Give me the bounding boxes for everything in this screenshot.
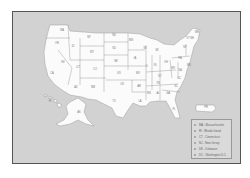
- state-label: UT: [76, 65, 80, 69]
- legend: MA - Massachusetts RI - Rhode Island CT …: [191, 119, 232, 159]
- state-label: NY: [183, 45, 187, 49]
- state-label: PA: [178, 56, 182, 60]
- state-label: MN: [129, 38, 133, 42]
- state-label: MS: [147, 91, 151, 95]
- hawaii: [44, 95, 61, 107]
- state-label: TN: [156, 81, 160, 85]
- state-label: SC: [174, 84, 178, 88]
- state-label: LA: [138, 99, 141, 103]
- state-label: WA: [60, 28, 64, 32]
- alaska: [56, 98, 94, 126]
- state-label: NE: [114, 59, 118, 63]
- state-label: WV: [171, 66, 175, 70]
- state-label: GA: [166, 91, 170, 95]
- state-label: ND: [112, 33, 116, 37]
- state-label: OR: [55, 41, 59, 45]
- state-label: KS: [117, 71, 121, 75]
- legend-marker-icon: [194, 130, 196, 132]
- state-label: PR: [204, 105, 208, 109]
- legend-marker-icon: [194, 136, 196, 138]
- legend-marker-icon: [194, 154, 196, 156]
- state-label: OK: [120, 82, 124, 86]
- state-label: SD: [112, 46, 116, 50]
- state-label: CA: [50, 71, 54, 75]
- state-label: NM: [91, 85, 95, 89]
- legend-item: DC - Washington D.C.: [194, 152, 229, 158]
- state-label: AL: [156, 91, 160, 95]
- state-label: WY: [90, 50, 94, 54]
- state-label: OH: [164, 60, 168, 64]
- state-label: KY: [158, 74, 162, 78]
- state-label: MI: [156, 48, 159, 52]
- state-label: AK: [77, 110, 81, 114]
- state-label: WI: [143, 46, 146, 50]
- state-label: ME: [195, 30, 199, 34]
- state-label: MD: [187, 63, 191, 67]
- state-label: TX: [112, 99, 116, 103]
- state-label: IA: [134, 56, 137, 60]
- state-label: AR: [137, 84, 141, 88]
- state-label: HI: [49, 99, 52, 103]
- legend-marker-icon: [194, 142, 196, 144]
- state-label: CO: [93, 67, 97, 71]
- state-label: NV: [61, 60, 65, 64]
- state-label: VA: [178, 68, 182, 72]
- legend-marker-icon: [194, 148, 196, 150]
- state-label: NH: [190, 36, 194, 40]
- state-label: MO: [136, 71, 140, 75]
- legend-marker-icon: [194, 124, 196, 126]
- state-label: MT: [87, 35, 91, 39]
- state-label: ID: [72, 44, 75, 48]
- state-label: NC: [177, 76, 181, 80]
- contiguous-us: [44, 25, 200, 118]
- state-label: AZ: [74, 85, 78, 89]
- state-label: IN: [154, 63, 157, 67]
